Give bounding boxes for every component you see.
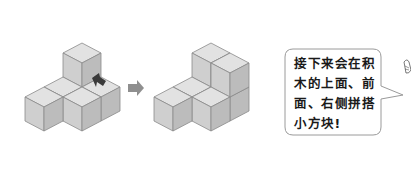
speech-bubble-text: 接下来会在积 木的上面、前 面、右侧拼搭 小方块! <box>294 54 380 134</box>
bubble-line-4: 小方块! <box>294 114 380 134</box>
cube-structure-before <box>25 43 120 131</box>
cube-structure-after <box>154 43 249 131</box>
cube <box>63 87 101 131</box>
bubble-line-2: 木的上面、前 <box>294 74 380 94</box>
transform-arrow-icon <box>128 80 144 96</box>
cube <box>154 87 192 131</box>
bubble-line-3: 面、右侧拼搭 <box>294 94 380 114</box>
cube <box>25 87 63 131</box>
hand-icon <box>404 60 411 73</box>
cube <box>192 87 230 131</box>
bubble-line-1: 接下来会在积 <box>294 54 380 74</box>
